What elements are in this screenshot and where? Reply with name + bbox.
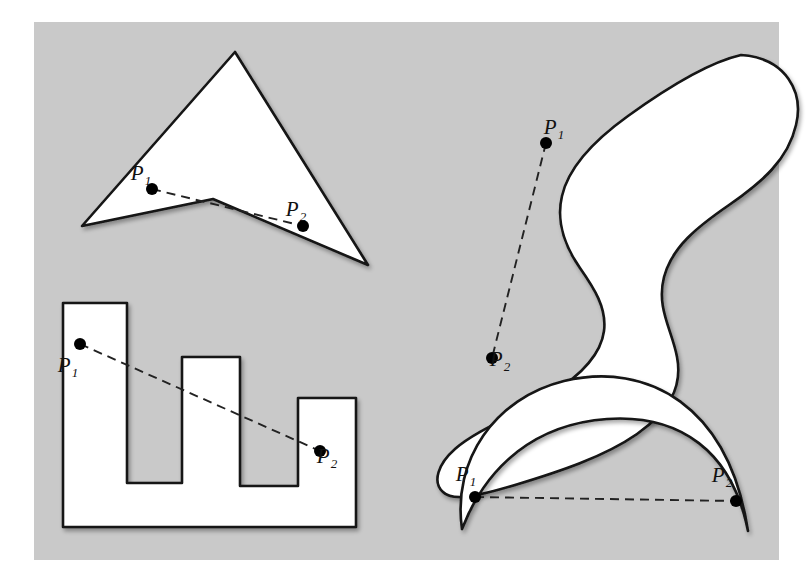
comb-polygon-point-p1: [74, 338, 86, 350]
crescent-point-p2: [730, 495, 742, 507]
figure-container: P1P2P1P2P1P2P1P2: [0, 0, 812, 587]
non-convex-regions-figure: P1P2P1P2P1P2P1P2: [0, 0, 812, 587]
crescent-point-p1: [469, 491, 481, 503]
